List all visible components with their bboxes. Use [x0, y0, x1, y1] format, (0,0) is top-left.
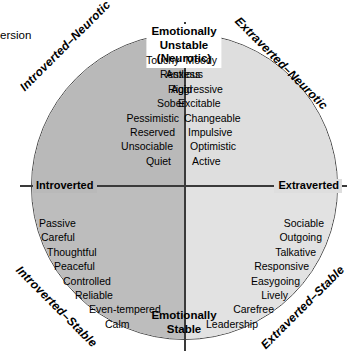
- trait-item: Sociable: [206, 216, 324, 230]
- trait-item: Reliable: [75, 288, 161, 302]
- trait-item: Passive: [39, 216, 161, 230]
- trait-item: Aggressive: [171, 82, 241, 96]
- pole-top-line-1: Emotionally: [151, 25, 216, 39]
- trait-item: Restless: [160, 67, 241, 81]
- trait-item: Even-tempered: [89, 302, 161, 316]
- trait-list-introverted-stable: PassiveCarefulThoughtfulPeacefulControll…: [39, 216, 161, 331]
- trait-item: Unsociable: [121, 139, 173, 153]
- trait-item: Responsive: [206, 259, 309, 273]
- trait-item: Controlled: [63, 274, 161, 288]
- trait-item: Pessimistic: [121, 111, 179, 125]
- pole-label-introverted: Introverted: [33, 179, 97, 193]
- trait-item: Talkative: [206, 245, 316, 259]
- trait-item: Sober: [121, 96, 185, 110]
- trait-item: Calm: [105, 317, 161, 331]
- trait-item: Touchy: [146, 53, 241, 67]
- trait-item: Peaceful: [54, 259, 161, 273]
- trait-list-extraverted-stable: SociableOutgoingTalkativeResponsiveEasyg…: [206, 216, 324, 331]
- trait-item: Excitable: [178, 96, 241, 110]
- trait-item: Easygoing: [206, 274, 300, 288]
- trait-item: Carefree: [206, 302, 274, 316]
- trait-item: Outgoing: [206, 230, 322, 244]
- trait-item: Changeable: [184, 111, 241, 125]
- trait-item: Careful: [41, 230, 161, 244]
- eysenck-personality-circumplex-diagram: ersion Emotionally Unstable (Neurotic) E…: [0, 0, 362, 358]
- trait-item: Optimistic: [190, 139, 241, 153]
- trait-item: Lively: [206, 288, 288, 302]
- trait-item: Leadership: [206, 317, 258, 331]
- trait-item: Quiet: [121, 154, 171, 168]
- trait-list-extraverted-neurotic: TouchyRestlessAggressiveExcitableChangea…: [190, 53, 241, 168]
- trait-item: Thoughtful: [47, 245, 161, 259]
- pole-top-line-2: Unstable: [151, 39, 216, 53]
- trait-item: Impulsive: [188, 125, 241, 139]
- pole-label-extraverted: Extraverted: [274, 179, 342, 193]
- trait-item: Active: [192, 154, 241, 168]
- trait-item: Reserved: [121, 125, 175, 139]
- clipped-edge-caption: ersion: [0, 29, 31, 41]
